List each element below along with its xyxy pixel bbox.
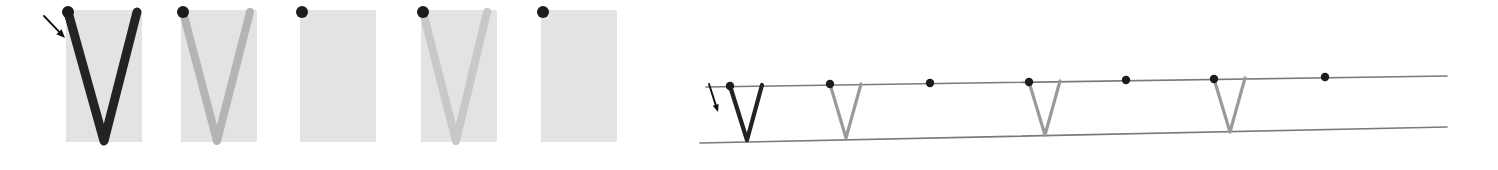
panel-5-corner-dot[interactable]	[537, 6, 549, 18]
panel-4-corner-dot[interactable]	[417, 6, 429, 18]
strip-dot-4[interactable]	[1025, 78, 1033, 86]
strip-dot-2[interactable]	[826, 80, 834, 88]
panel-1[interactable]	[62, 6, 142, 142]
strip-dot-3[interactable]	[926, 79, 934, 87]
strip-dot-6[interactable]	[1210, 75, 1218, 83]
strip-dot-1[interactable]	[726, 82, 734, 90]
panel-5-background	[541, 10, 617, 142]
panel-1-corner-dot[interactable]	[62, 6, 74, 18]
panel-4[interactable]	[417, 6, 497, 142]
strip-dot-5[interactable]	[1122, 76, 1130, 84]
panel-5[interactable]	[537, 6, 617, 142]
panel-3-background	[300, 10, 376, 142]
panel-3-corner-dot[interactable]	[296, 6, 308, 18]
panel-2-corner-dot[interactable]	[177, 6, 189, 18]
figure-canvas	[0, 0, 1498, 170]
panel-2[interactable]	[177, 6, 257, 142]
panel-3[interactable]	[296, 6, 376, 142]
strip-dot-7[interactable]	[1321, 73, 1329, 81]
figure-root	[0, 0, 1498, 170]
